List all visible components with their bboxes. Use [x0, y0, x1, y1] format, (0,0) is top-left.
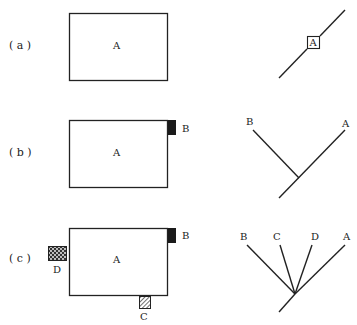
row-label-c: ( c ) — [9, 252, 31, 265]
main-box-label-a: A — [112, 40, 121, 51]
attachment-c-c-box — [140, 297, 151, 309]
attachment-b-tab — [168, 120, 176, 135]
tree-a: A — [279, 10, 345, 78]
attachment-c-d-label: D — [53, 264, 61, 275]
tree-b-leaf-a: A — [341, 118, 350, 129]
tree-c-leaf-b: B — [240, 231, 247, 242]
attachment-b-label: B — [182, 123, 189, 134]
panel-a: ( a ) A A — [9, 10, 345, 81]
tree-c: B C D A — [240, 231, 351, 312]
tree-c-leaf-d: D — [311, 231, 319, 242]
row-label-b: ( b ) — [9, 146, 32, 159]
row-label-a: ( a ) — [9, 39, 31, 52]
panel-b: ( b ) A B B A — [9, 116, 350, 198]
attachment-c-c-label: C — [140, 311, 148, 322]
attachment-c-d-box — [49, 247, 67, 261]
tree-node-label-a: A — [309, 37, 318, 48]
diagram-canvas: ( a ) A A ( b ) A B B A ( c ) A B D — [0, 0, 357, 325]
tree-c-leaf-a: A — [342, 231, 351, 242]
panel-c: ( c ) A B D C B C D A — [9, 228, 351, 322]
main-box-label-c: A — [112, 254, 121, 265]
main-box-label-b: A — [112, 147, 121, 158]
tree-b-leaf-b: B — [246, 116, 253, 127]
attachment-c-b-label: B — [182, 230, 189, 241]
tree-c-leaf-c: C — [273, 231, 281, 242]
attachment-c-b-tab — [168, 228, 176, 243]
tree-b: B A — [246, 116, 350, 198]
